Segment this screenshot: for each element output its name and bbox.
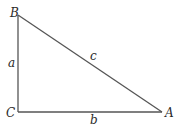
vertex-label-a: A [164, 106, 174, 120]
side-label-c: c [90, 49, 97, 63]
side-label-b: b [90, 113, 98, 127]
triangle-sides [18, 15, 162, 112]
side-c-line [18, 15, 162, 112]
vertex-label-b: B [9, 6, 19, 20]
side-label-a: a [8, 56, 15, 70]
triangle-diagram: B C A a b c [0, 0, 184, 130]
vertex-label-c: C [6, 106, 15, 120]
